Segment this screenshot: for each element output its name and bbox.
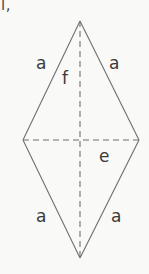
rhombus-diagram-canvas: l, a a a a f e <box>0 0 149 274</box>
side-bottom-right-line <box>80 140 139 258</box>
side-label-a-bottom-left: a <box>36 208 46 225</box>
diagonal-label-f: f <box>62 70 68 87</box>
rhombus-shape-svg <box>0 0 149 274</box>
side-label-a-top-left: a <box>36 55 46 72</box>
side-label-a-top-right: a <box>109 55 119 72</box>
side-bottom-left-line <box>23 140 80 258</box>
diagonal-label-e: e <box>99 148 109 165</box>
side-top-left-line <box>23 21 80 140</box>
side-top-right-line <box>80 21 139 140</box>
side-label-a-bottom-right: a <box>111 208 121 225</box>
